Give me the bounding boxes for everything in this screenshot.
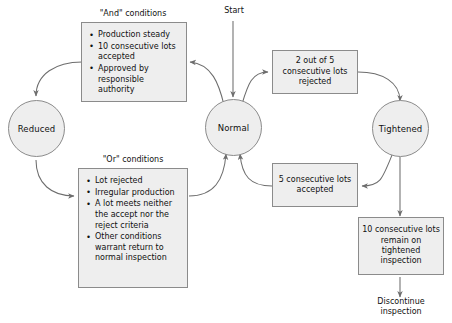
box-two-of-five-rejected[interactable]: 2 out of 5 consecutive lots rejected — [272, 50, 358, 94]
box-two-of-five-rejected-label: 2 out of 5 consecutive lots rejected — [273, 54, 357, 89]
discontinue-inspection-label: Discontinue inspection — [358, 297, 444, 318]
or-conditions-list: Lot rejected Irregular production A lot … — [86, 176, 179, 264]
box-five-lots-accepted-label: 5 consecutive lots accepted — [273, 173, 357, 198]
box-ten-lots-remain[interactable]: 10 consecutive lots remain on tightened … — [358, 217, 444, 275]
start-label: Start — [206, 6, 262, 15]
edge-two-of-five-to-tightened — [358, 72, 400, 101]
or-conditions-caption: "Or" conditions — [78, 155, 188, 164]
box-five-lots-accepted[interactable]: 5 consecutive lots accepted — [272, 163, 358, 207]
edge-tightened-to-five-accepted — [362, 155, 392, 186]
and-condition-item: 10 consecutive lots accepted — [89, 42, 178, 63]
state-tightened[interactable]: Tightened — [372, 100, 429, 157]
state-normal[interactable]: Normal — [205, 99, 262, 156]
state-tightened-label: Tightened — [379, 124, 423, 134]
state-reduced[interactable]: Reduced — [8, 100, 65, 157]
and-conditions-box[interactable]: Production steady 10 consecutive lots ac… — [81, 22, 187, 102]
or-condition-item: Other conditions warrant return to norma… — [86, 232, 179, 264]
and-conditions-list: Production steady 10 consecutive lots ac… — [89, 30, 178, 96]
flowchart-canvas: Start "And" conditions Production steady… — [0, 0, 452, 323]
edge-or-to-normal — [189, 154, 226, 196]
and-conditions-caption: "And" conditions — [78, 9, 188, 18]
edge-and-to-reduced — [36, 62, 82, 96]
and-condition-item: Approved by responsible authority — [89, 64, 178, 96]
state-reduced-label: Reduced — [18, 124, 56, 134]
or-condition-item: Irregular production — [86, 188, 179, 199]
edge-normal-to-and — [190, 62, 224, 105]
and-condition-item: Production steady — [89, 30, 178, 41]
edge-normal-to-two-of-five — [242, 72, 268, 104]
box-ten-lots-remain-label: 10 consecutive lots remain on tightened … — [359, 223, 443, 269]
state-normal-label: Normal — [218, 123, 249, 133]
edge-reduced-to-or — [36, 160, 74, 196]
or-conditions-box[interactable]: Lot rejected Irregular production A lot … — [78, 168, 188, 288]
or-condition-item: A lot meets neither the accept nor the r… — [86, 199, 179, 231]
or-condition-item: Lot rejected — [86, 176, 179, 187]
edge-five-accepted-to-normal — [240, 154, 272, 186]
